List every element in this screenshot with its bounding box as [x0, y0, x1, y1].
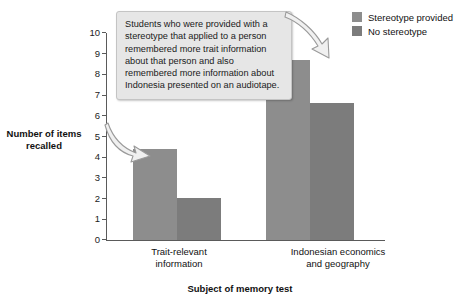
x-axis-category-label: Trait-relevantinformation	[120, 246, 238, 270]
y-axis-tick: 0	[85, 235, 106, 245]
y-axis-tick: 3	[85, 173, 106, 183]
bar-chart-figure: Number of items recalled 109876543210 Tr…	[0, 0, 475, 303]
y-axis-tick: 1	[85, 214, 106, 224]
x-axis-category-line: Trait-relevant	[120, 246, 238, 258]
x-axis-title: Subject of memory test	[95, 283, 385, 294]
x-axis-category-label: Indonesian economicsand geography	[268, 246, 408, 270]
x-axis-category-line: information	[120, 258, 238, 270]
bar	[310, 103, 354, 240]
x-axis-category-line: and geography	[268, 258, 408, 270]
legend-item-stereotype-provided: Stereotype provided	[352, 10, 453, 24]
y-axis-tick: 4	[85, 152, 106, 162]
y-axis-tick: 9	[85, 49, 106, 59]
x-axis-category-line: Indonesian economics	[268, 246, 408, 258]
y-axis-tick: 7	[85, 90, 106, 100]
legend-swatch-icon	[352, 26, 362, 36]
y-axis-title: Number of items recalled	[2, 128, 86, 152]
legend: Stereotype provided No stereotype	[352, 10, 453, 38]
x-axis-line	[106, 240, 385, 241]
y-axis-tick: 10	[85, 28, 106, 38]
legend-item-no-stereotype: No stereotype	[352, 24, 453, 38]
legend-swatch-icon	[352, 12, 362, 22]
y-axis-tick: 2	[85, 194, 106, 204]
annotation-callout: Students who were provided with a stereo…	[116, 11, 292, 100]
legend-label: Stereotype provided	[368, 12, 453, 23]
y-axis-tick: 5	[85, 132, 106, 142]
y-axis-tick: 8	[85, 69, 106, 79]
legend-label: No stereotype	[368, 26, 427, 37]
bar	[133, 149, 177, 240]
y-axis-tick: 6	[85, 111, 106, 121]
bar	[177, 198, 221, 240]
